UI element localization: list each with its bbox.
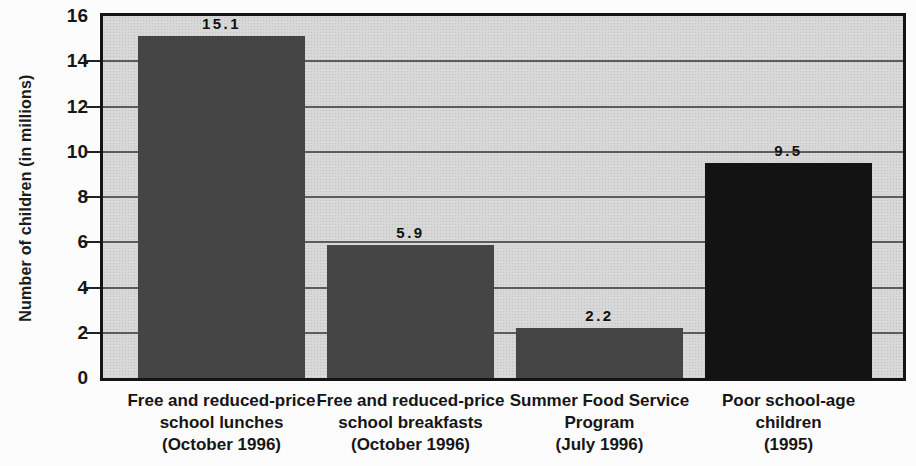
x-category-label-line: Free and reduced-price <box>112 390 332 412</box>
x-category-label-2: Free and reduced-priceschool breakfasts(… <box>301 390 521 456</box>
y-tick-label: 14 <box>0 50 88 72</box>
x-category-label-line: school lunches <box>112 412 332 434</box>
x-category-label-line: (1995) <box>679 434 899 456</box>
x-category-label-line: children <box>679 412 899 434</box>
y-tick-label: 0 <box>0 367 88 389</box>
x-category-label-3: Summer Food ServiceProgram(July 1996) <box>490 390 710 456</box>
y-tick-label: 2 <box>0 322 88 344</box>
y-tick-mark <box>86 106 100 108</box>
y-tick-mark <box>86 332 100 334</box>
x-category-label-line: Free and reduced-price <box>301 390 521 412</box>
bar-value-label: 9.5 <box>680 142 897 159</box>
x-category-label-line: school breakfasts <box>301 412 521 434</box>
bar-value-label: 15.1 <box>113 15 330 32</box>
y-tick-label: 8 <box>0 186 88 208</box>
y-tick-label: 16 <box>0 5 88 27</box>
bar-3 <box>516 328 683 378</box>
bar-2 <box>327 245 494 378</box>
bar-value-label: 5.9 <box>302 224 519 241</box>
y-tick-mark <box>86 151 100 153</box>
y-tick-label: 6 <box>0 231 88 253</box>
x-category-label-line: (October 1996) <box>301 434 521 456</box>
bar-chart: Number of children (in millions) 15.15.9… <box>0 0 916 466</box>
x-category-label-1: Free and reduced-priceschool lunches(Oct… <box>112 390 332 456</box>
x-category-label-line: (October 1996) <box>112 434 332 456</box>
x-category-label-line: Poor school-age <box>679 390 899 412</box>
x-category-label-4: Poor school-agechildren(1995) <box>679 390 899 456</box>
bar-4 <box>705 163 872 378</box>
y-tick-label: 10 <box>0 141 88 163</box>
bar-value-label: 2.2 <box>491 307 708 324</box>
y-tick-mark <box>86 196 100 198</box>
y-tick-label: 12 <box>0 96 88 118</box>
x-category-label-line: Summer Food Service <box>490 390 710 412</box>
x-category-label-line: (July 1996) <box>490 434 710 456</box>
bar-1 <box>138 36 305 378</box>
y-tick-label: 4 <box>0 277 88 299</box>
y-tick-mark <box>86 287 100 289</box>
y-tick-mark <box>86 60 100 62</box>
x-category-label-line: Program <box>490 412 710 434</box>
plot-area: 15.15.92.29.5 <box>100 13 906 381</box>
y-tick-mark <box>86 241 100 243</box>
